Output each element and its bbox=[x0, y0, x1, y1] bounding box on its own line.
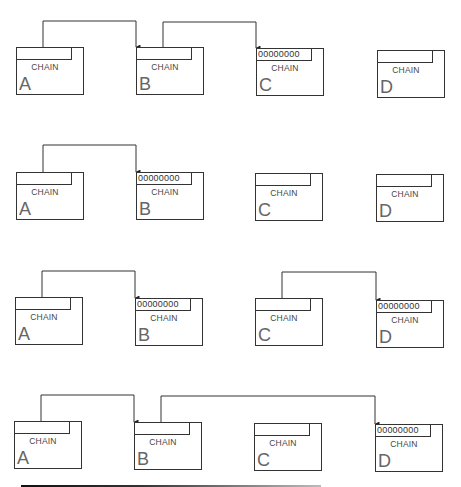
record-box-a: CHAINA bbox=[16, 47, 84, 95]
chain-field bbox=[16, 47, 72, 60]
record-box-a: CHAINA bbox=[15, 297, 83, 345]
chain-label: CHAIN bbox=[17, 62, 73, 72]
record-letter: B bbox=[139, 200, 151, 218]
record-letter: A bbox=[19, 200, 31, 218]
record-box-d: CHAIND bbox=[377, 50, 445, 98]
record-box-c: CHAINC bbox=[255, 173, 323, 221]
chain-label: CHAIN bbox=[256, 188, 312, 198]
record-letter: C bbox=[258, 326, 271, 344]
chain-label: CHAIN bbox=[137, 187, 193, 197]
record-letter: B bbox=[139, 75, 151, 93]
record-box-b: 00000000CHAINB bbox=[135, 298, 203, 346]
record-letter: D bbox=[380, 78, 393, 96]
chain-label: CHAIN bbox=[136, 313, 192, 323]
record-box-a: CHAINA bbox=[14, 421, 82, 469]
record-box-c: CHAINC bbox=[255, 298, 323, 346]
chain-field bbox=[136, 47, 192, 60]
chain-field bbox=[14, 421, 70, 434]
chain-field: 00000000 bbox=[136, 172, 192, 185]
chain-field bbox=[16, 172, 72, 185]
chain-label: CHAIN bbox=[257, 63, 313, 73]
record-box-c: 00000000CHAINC bbox=[256, 48, 324, 96]
chain-label: CHAIN bbox=[15, 436, 71, 446]
chain-field bbox=[15, 297, 71, 310]
record-letter: D bbox=[378, 452, 391, 470]
chain-label: CHAIN bbox=[16, 312, 72, 322]
chain-label: CHAIN bbox=[377, 189, 433, 199]
record-letter: A bbox=[17, 449, 29, 467]
record-letter: C bbox=[257, 451, 270, 469]
chain-field bbox=[255, 298, 311, 311]
chain-label: CHAIN bbox=[377, 315, 433, 325]
chain-label: CHAIN bbox=[256, 313, 312, 323]
chain-field: 00000000 bbox=[375, 424, 431, 437]
chain-field bbox=[254, 423, 310, 436]
record-box-c: CHAINC bbox=[254, 423, 322, 471]
record-letter: A bbox=[19, 75, 31, 93]
record-box-d: CHAIND bbox=[376, 174, 444, 222]
record-box-a: CHAINA bbox=[16, 172, 84, 220]
record-box-b: 00000000CHAINB bbox=[136, 172, 204, 220]
record-box-b: CHAINB bbox=[134, 422, 202, 470]
record-letter: B bbox=[138, 326, 150, 344]
record-letter: B bbox=[137, 450, 149, 468]
record-letter: D bbox=[379, 328, 392, 346]
record-letter: A bbox=[18, 325, 30, 343]
chain-field: 00000000 bbox=[135, 298, 191, 311]
chain-field bbox=[255, 173, 311, 186]
record-box-d: 00000000CHAIND bbox=[376, 300, 444, 348]
record-letter: D bbox=[379, 202, 392, 220]
record-box-d: 00000000CHAIND bbox=[375, 424, 443, 472]
record-letter: C bbox=[259, 76, 272, 94]
chain-label: CHAIN bbox=[378, 65, 434, 75]
chain-field bbox=[377, 50, 433, 63]
chain-label: CHAIN bbox=[255, 438, 311, 448]
chain-label: CHAIN bbox=[17, 187, 73, 197]
chain-field: 00000000 bbox=[256, 48, 312, 61]
chain-label: CHAIN bbox=[135, 437, 191, 447]
chain-field bbox=[376, 174, 432, 187]
chain-label: CHAIN bbox=[137, 62, 193, 72]
record-letter: C bbox=[258, 201, 271, 219]
chain-field: 00000000 bbox=[376, 300, 432, 313]
chain-field bbox=[134, 422, 190, 435]
chain-label: CHAIN bbox=[376, 439, 432, 449]
record-box-b: CHAINB bbox=[136, 47, 204, 95]
